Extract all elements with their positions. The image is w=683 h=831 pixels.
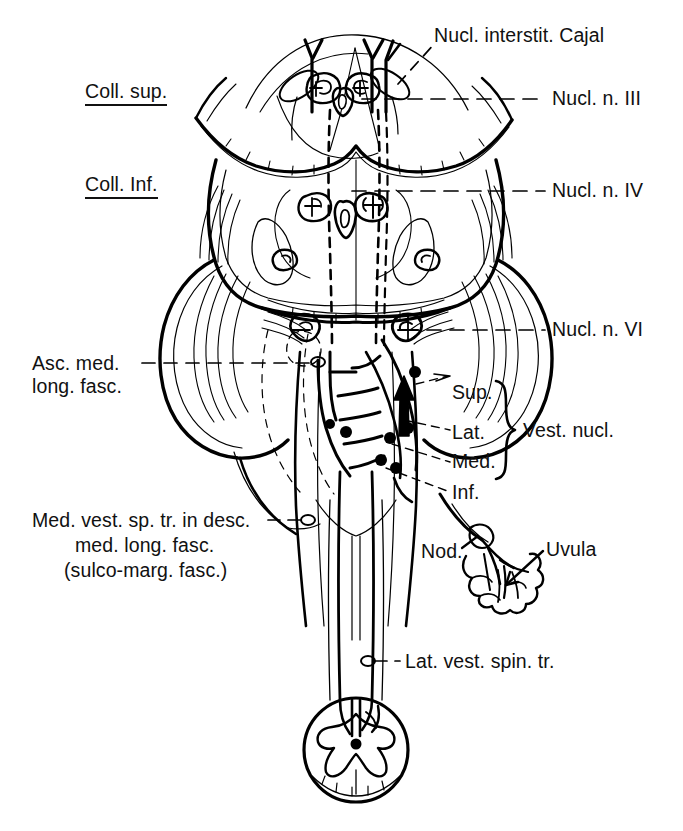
label-vest-nucl-group: Vest. nucl. (523, 419, 614, 442)
label-vest-nucl-med: Med. (452, 450, 496, 473)
label-asc-med-long-fasc-line2: long. fasc. (32, 375, 122, 398)
label-nod: Nod. (421, 540, 463, 563)
label-nucl-n-iv: Nucl. n. IV (552, 179, 643, 202)
label-nucl-n-iii: Nucl. n. III (552, 87, 641, 110)
label-nucl-interstit-cajal: Nucl. interstit. Cajal (434, 24, 604, 47)
label-vest-nucl-sup: Sup. (452, 381, 493, 404)
brainstem-diagram (0, 0, 683, 831)
label-med-vest-sp-tr-line2: med. long. fasc. (75, 534, 214, 557)
label-vest-nucl-inf: Inf. (452, 481, 480, 504)
label-med-vest-sp-tr-line1: Med. vest. sp. tr. in desc. (32, 509, 250, 532)
label-med-vest-sp-tr-line3: (sulco-marg. fasc.) (64, 559, 227, 582)
label-lat-vest-spin-tr: Lat. vest. spin. tr. (405, 650, 554, 673)
label-nucl-n-vi: Nucl. n. VI (552, 318, 643, 341)
label-coll-sup: Coll. sup. (85, 80, 167, 106)
label-uvula: Uvula (546, 538, 596, 561)
label-asc-med-long-fasc-line1: Asc. med. (32, 352, 120, 375)
label-coll-inf: Coll. Inf. (85, 173, 158, 199)
label-vest-nucl-lat: Lat. (452, 421, 485, 444)
